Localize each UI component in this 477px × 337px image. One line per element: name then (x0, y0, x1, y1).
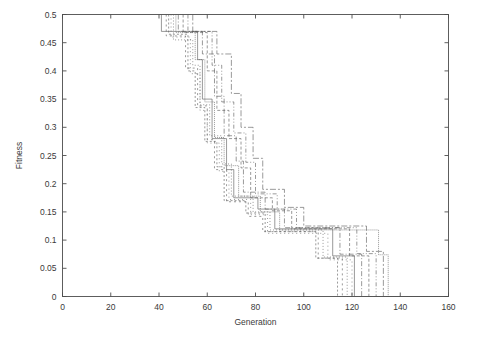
xtick-label-140: 140 (393, 302, 407, 312)
xtick-label-40: 40 (154, 302, 164, 312)
ytick-label-0.25: 0.25 (40, 151, 57, 161)
xtick-label-0: 0 (60, 302, 65, 312)
ytick-label-0.1: 0.1 (45, 235, 57, 245)
series-line-run-9 (193, 15, 449, 297)
xtick-label-20: 20 (106, 302, 116, 312)
ytick-label-0.05: 0.05 (40, 263, 57, 273)
series-line-run-5 (183, 15, 448, 297)
series-line-run-2 (169, 15, 449, 297)
series-line-run-8 (166, 15, 448, 297)
ytick-label-0.15: 0.15 (40, 207, 57, 217)
ytick-label-0.3: 0.3 (45, 122, 57, 132)
series-line-run-3 (173, 15, 448, 297)
xtick-label-160: 160 (441, 302, 455, 312)
ytick-label-0: 0 (52, 292, 57, 302)
figure-canvas: 02040608010012014016000.050.10.150.20.25… (0, 0, 477, 337)
y-axis-title: Fitness (14, 142, 24, 169)
fitness-vs-generation-chart: 02040608010012014016000.050.10.150.20.25… (0, 0, 477, 337)
xtick-label-120: 120 (345, 302, 359, 312)
xtick-label-60: 60 (203, 302, 213, 312)
ytick-label-0.4: 0.4 (45, 66, 57, 76)
ytick-label-0.35: 0.35 (40, 94, 57, 104)
ytick-label-0.2: 0.2 (45, 179, 57, 189)
series-line-run-1 (161, 15, 448, 297)
x-axis-title: Generation (234, 317, 276, 327)
plot-box (63, 15, 449, 297)
xtick-label-80: 80 (251, 302, 261, 312)
series-line-run-6 (171, 15, 448, 297)
series-line-run-4 (178, 15, 448, 297)
xtick-label-100: 100 (297, 302, 311, 312)
series-group (161, 15, 448, 297)
ytick-label-0.45: 0.45 (40, 38, 57, 48)
ytick-label-0.5: 0.5 (45, 10, 57, 20)
